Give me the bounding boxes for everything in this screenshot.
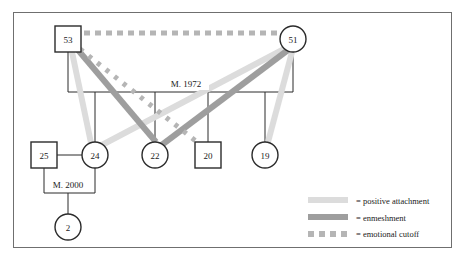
legend-item-emotional-cutoff: = emotional cutoff xyxy=(308,229,419,239)
node-22[interactable]: 22 xyxy=(142,142,168,168)
node-53-label: 53 xyxy=(64,35,74,45)
node-51[interactable]: 51 xyxy=(280,26,306,52)
marriage-label-1972: M. 1972 xyxy=(171,79,202,89)
node-53[interactable]: 53 xyxy=(55,26,81,52)
legend-label-enmeshment: = enmeshment xyxy=(356,213,407,223)
node-22-label: 22 xyxy=(151,151,160,161)
legend-swatch-positive-attachment xyxy=(308,197,348,203)
node-2[interactable]: 2 xyxy=(55,214,81,240)
node-25-label: 25 xyxy=(40,151,50,161)
legend-label-emotional-cutoff: = emotional cutoff xyxy=(356,229,419,239)
node-20-label: 20 xyxy=(204,151,214,161)
rel-positive-51-24 xyxy=(100,48,286,146)
legend: = positive attachment = enmeshment = emo… xyxy=(308,196,430,239)
node-19[interactable]: 19 xyxy=(252,142,278,168)
node-19-label: 19 xyxy=(261,151,271,161)
node-24-label: 24 xyxy=(91,151,101,161)
genogram-figure: 53 51 25 24 22 20 xyxy=(0,0,466,262)
legend-item-positive-attachment: = positive attachment xyxy=(308,196,430,206)
node-20[interactable]: 20 xyxy=(195,142,221,168)
legend-swatch-enmeshment xyxy=(308,214,348,220)
node-24[interactable]: 24 xyxy=(82,142,108,168)
node-25[interactable]: 25 xyxy=(31,142,57,168)
legend-item-enmeshment: = enmeshment xyxy=(308,213,407,223)
genogram-canvas: 53 51 25 24 22 20 xyxy=(0,0,466,262)
legend-label-positive-attachment: = positive attachment xyxy=(356,196,430,206)
node-2-label: 2 xyxy=(66,223,71,233)
node-51-label: 51 xyxy=(289,35,298,45)
marriage-label-2000: M. 2000 xyxy=(53,180,84,190)
